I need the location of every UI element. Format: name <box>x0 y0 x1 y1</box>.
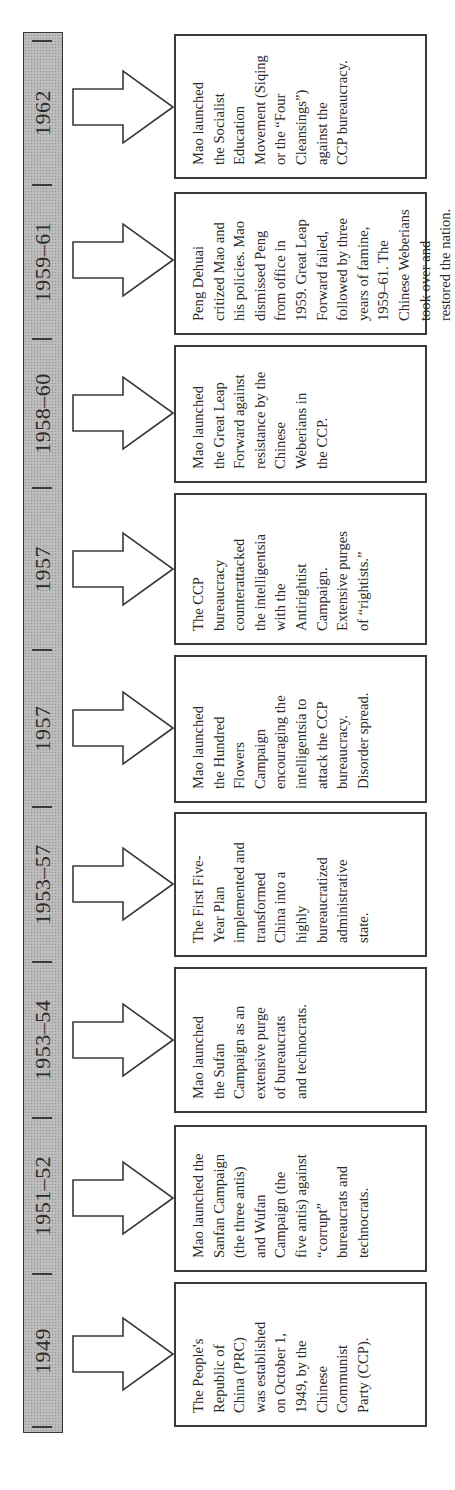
event-box-1949: The People's Republic of China (PRC) was… <box>174 1282 427 1427</box>
arrow-icon <box>73 362 176 465</box>
period-label-1953-57: 1953–57 <box>23 808 63 961</box>
period-label-1957-hundred-flowers: 1957 <box>23 651 63 806</box>
arrow-icon <box>73 209 176 312</box>
period-label-1958-60: 1958–60 <box>23 340 63 487</box>
event-description: Mao launched the Socialist Education Mov… <box>188 44 353 165</box>
event-description: Mao launched the Hundred Flowers Campaig… <box>188 665 373 789</box>
period-label-1957-antirightist: 1957 <box>23 489 63 649</box>
event-box-1959-61: Peng Dehuai critized Mao and his policie… <box>174 192 427 335</box>
event-box-1953-54: Mao launched the Sufan Campaign as an ex… <box>174 967 427 1113</box>
arrow-icon <box>73 56 176 159</box>
arrow-icon <box>73 1147 176 1250</box>
arrow-icon <box>73 1303 176 1406</box>
event-description: The CCP bureaucracy counterattacked the … <box>188 503 373 631</box>
period-label-1953-54: 1953–54 <box>23 963 63 1117</box>
event-box-1951-52: Mao launched the Sanfan Campaign (the th… <box>174 1125 427 1272</box>
arrow-icon <box>73 677 176 780</box>
event-description: The People's Republic of China (PRC) was… <box>188 1292 373 1413</box>
period-label-1962: 1962 <box>23 42 63 184</box>
event-box-1957-hundred-flowers: Mao launched the Hundred Flowers Campaig… <box>174 655 427 803</box>
arrow-icon <box>73 833 176 936</box>
event-description: Mao launched the Great Leap Forward agai… <box>188 355 332 469</box>
period-label-1949: 1949 <box>23 1275 63 1427</box>
event-description: Mao launched the Sanfan Campaign (the th… <box>188 1135 373 1258</box>
period-label-1951-52: 1951–52 <box>23 1119 63 1273</box>
arrow-icon <box>73 518 176 621</box>
event-box-1953-57: The First Five- Year Plan implemented an… <box>174 812 427 957</box>
event-description: The First Five- Year Plan implemented an… <box>188 822 373 943</box>
event-box-1958-60: Mao launched the Great Leap Forward agai… <box>174 345 427 483</box>
event-box-1957-antirightist: The CCP bureaucracy counterattacked the … <box>174 493 427 645</box>
period-label-1959-61: 1959–61 <box>23 186 63 338</box>
event-description: Peng Dehuai critized Mao and his policie… <box>188 202 455 321</box>
arrow-icon <box>73 989 176 1092</box>
event-box-1962: Mao launched the Socialist Education Mov… <box>174 34 427 179</box>
event-description: Mao launched the Sufan Campaign as an ex… <box>188 977 312 1099</box>
